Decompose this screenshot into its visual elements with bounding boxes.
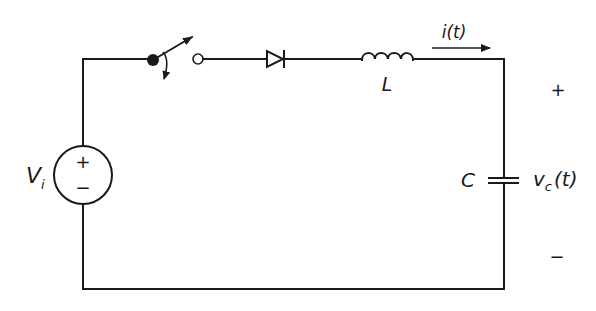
capacitor-voltage: + vc(t) − [533,79,577,267]
switch-arm [153,37,192,60]
wire-left-upper [83,59,153,146]
switch-action-arrow [163,52,167,79]
source-label-subscript: i [41,177,45,192]
capacitor: C [461,168,518,192]
wire-right-upper [413,59,504,178]
vc-minus-sign: − [549,246,564,267]
wires [83,59,504,289]
vc-label-suffix: (t) [554,167,577,191]
switch-contact-circle [193,54,203,64]
vc-label-subscript: c [545,179,552,194]
diode [267,51,284,67]
current-indicator: i(t) [432,22,490,48]
source-label: Vi [26,163,45,192]
inductor-coil [362,53,413,60]
current-label: i(t) [442,22,467,42]
capacitor-label: C [461,168,475,192]
vc-label: vc(t) [533,167,577,194]
inductor-label: L [382,73,393,95]
voltage-source: + − Vi [26,146,112,204]
inductor: L [362,53,413,95]
diode-triangle [267,51,283,67]
source-minus-sign: − [75,177,90,198]
circuit-diagram: + − Vi L i(t) C + vc(t) − [0,0,596,311]
source-plus-sign: + [75,151,90,172]
wire-bottom [83,183,504,289]
switch [147,37,203,79]
vc-plus-sign: + [550,79,565,100]
